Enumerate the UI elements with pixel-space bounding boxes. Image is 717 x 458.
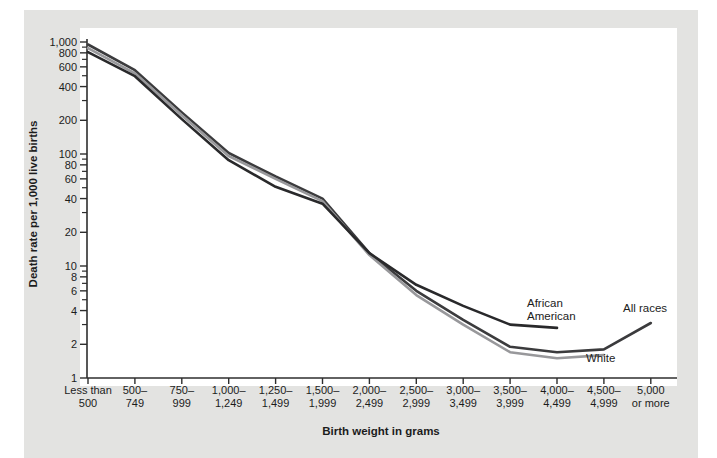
series-label-all-races: All races <box>623 302 667 314</box>
y-tick-label: 60 <box>65 173 77 185</box>
x-tick-label: 1,500–1,999 <box>306 384 341 409</box>
x-tick-label: 3,500–3,999 <box>493 384 528 409</box>
y-tick-label: 600 <box>59 61 77 73</box>
x-tick-label: 3,000–3,499 <box>446 384 481 409</box>
series-label-white: White <box>586 352 615 364</box>
y-tick-label: 40 <box>65 193 77 205</box>
x-tick-label: 1,250–1,499 <box>259 384 294 409</box>
x-axis-title: Birth weight in grams <box>322 425 440 437</box>
x-tick-label: 4,000–4,499 <box>540 384 575 409</box>
y-tick-label: 1 <box>71 372 77 384</box>
y-tick-label: 80 <box>65 159 77 171</box>
x-axis: Less than500500–749750–9991,000–1,2491,2… <box>64 378 677 409</box>
series-label-african-american: AfricanAmerican <box>527 297 576 322</box>
y-tick-label: 6 <box>71 285 77 297</box>
y-axis: 1,000800600400200100806040201086421 <box>49 36 87 384</box>
x-tick-label: 500–749 <box>123 384 148 409</box>
x-tick-label: 2,000–2,499 <box>353 384 388 409</box>
y-tick-label: 8 <box>71 271 77 283</box>
y-tick-label: 20 <box>65 226 77 238</box>
x-tick-label: 750–999 <box>170 384 195 409</box>
chart: 1,000800600400200100806040201086421 Less… <box>0 0 717 458</box>
y-tick-label: 4 <box>71 305 77 317</box>
x-tick-label: Less than500 <box>64 384 112 409</box>
x-tick-label: 2,500–2,999 <box>399 384 434 409</box>
y-axis-title: Death rate per 1,000 live births <box>27 121 39 288</box>
x-tick-label: 1,000–1,249 <box>212 384 247 409</box>
x-tick-label: 4,500–4,999 <box>587 384 622 409</box>
y-tick-label: 400 <box>59 81 77 93</box>
y-tick-label: 200 <box>59 114 77 126</box>
series-labels: All racesWhiteAfricanAmerican <box>527 297 667 364</box>
y-tick-label: 800 <box>59 47 77 59</box>
y-tick-label: 2 <box>71 338 77 350</box>
x-tick-label: 5,000or more <box>632 384 670 409</box>
series-line-all-races <box>88 45 651 353</box>
